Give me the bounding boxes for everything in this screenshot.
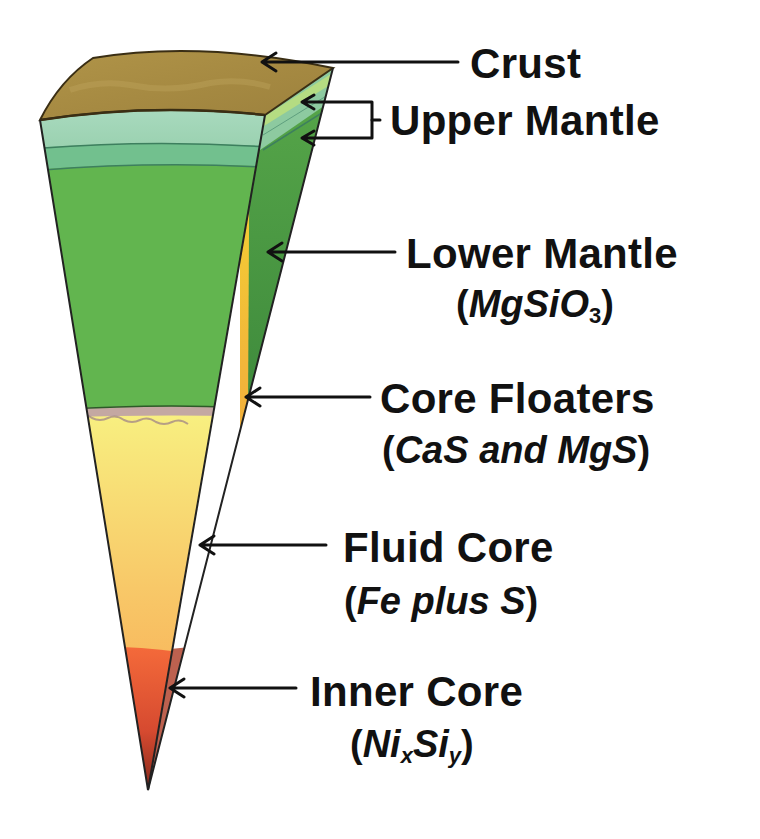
core-floaters-formula: (CaS and MgS) — [382, 429, 650, 472]
fluid-core-formula: (Fe plus S) — [344, 580, 538, 623]
fluid-core-label: Fluid Core — [343, 524, 554, 572]
lower-mantle-label: Lower Mantle — [406, 230, 678, 278]
inner-core-arrow — [170, 679, 296, 697]
fluid-core-arrow — [200, 536, 326, 554]
inner-core-front — [0, 647, 180, 800]
inner-core-formula: (NixSiy) — [350, 723, 474, 769]
upper-mantle-label: Upper Mantle — [390, 97, 660, 145]
crust-label: Crust — [470, 40, 581, 88]
core-floaters-label: Core Floaters — [380, 375, 655, 423]
lower-mantle-formula: (MgSiO3) — [456, 283, 614, 329]
core-floaters-arrow — [246, 388, 370, 406]
inner-core-label: Inner Core — [310, 668, 523, 716]
